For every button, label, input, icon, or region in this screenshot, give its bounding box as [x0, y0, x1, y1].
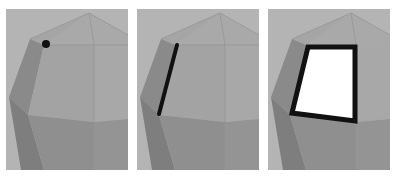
panel-edge	[137, 9, 259, 170]
panel-face	[268, 9, 390, 170]
polyhedron-edge-selected	[137, 9, 259, 170]
polyhedron-face-selected	[268, 9, 390, 170]
polyhedron-vertex-selected	[6, 9, 128, 170]
panel-vertex	[6, 9, 128, 170]
selected-vertex-marker	[42, 40, 50, 48]
